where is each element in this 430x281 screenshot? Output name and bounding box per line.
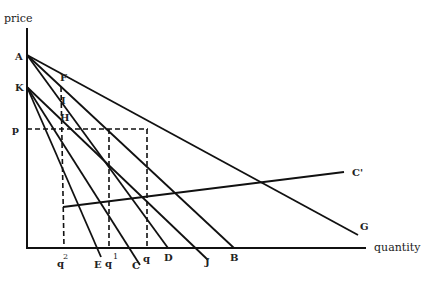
label-q: q xyxy=(143,253,150,264)
label-q1-sub: 1 xyxy=(113,252,118,261)
label-q1: q xyxy=(105,258,112,269)
label-F: F xyxy=(60,72,67,83)
label-A: A xyxy=(14,51,23,62)
label-D: D xyxy=(164,252,173,263)
label-p: p xyxy=(12,124,19,135)
line-AG xyxy=(27,55,358,235)
label-H: H xyxy=(60,112,69,123)
label-C: C xyxy=(132,260,140,271)
line-AD xyxy=(27,55,168,248)
label-I: I xyxy=(61,95,66,106)
line-KC xyxy=(27,87,140,265)
line-KJ xyxy=(27,87,208,260)
label-E: E xyxy=(94,259,102,270)
label-K: K xyxy=(15,82,24,93)
label-G: G xyxy=(360,221,369,232)
line-CC-prime xyxy=(63,172,344,207)
x-axis-label: quantity xyxy=(374,241,421,254)
label-J: J xyxy=(204,256,210,267)
label-B: B xyxy=(230,252,238,263)
label-C-prime: C' xyxy=(352,167,363,178)
economics-diagram: price quantity A K F I H p G C' B J D C … xyxy=(0,0,430,281)
label-q2-sub: 2 xyxy=(63,252,68,261)
y-axis-label: price xyxy=(4,12,33,25)
